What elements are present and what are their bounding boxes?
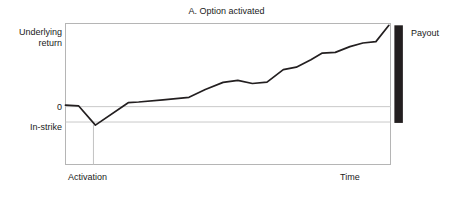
y-axis-label: Underlyingreturn	[0, 27, 62, 48]
y-tick-in-strike: In-strike	[0, 122, 62, 133]
plot-frame	[66, 24, 391, 165]
x-axis-label: Time	[340, 172, 360, 183]
y-tick-zero: 0	[0, 102, 62, 113]
chart-figure: A. Option activated Underlyingreturn 0 I…	[0, 0, 453, 197]
payout-label: Payout	[411, 28, 439, 39]
payout-bar	[394, 25, 403, 123]
series-underlying-return	[66, 25, 389, 125]
y-axis-label-line1: Underlying	[19, 27, 62, 37]
x-tick-activation: Activation	[68, 172, 107, 183]
y-axis-label-line2: return	[38, 38, 62, 48]
chart-title: A. Option activated	[0, 6, 453, 17]
chart-canvas	[0, 0, 453, 197]
